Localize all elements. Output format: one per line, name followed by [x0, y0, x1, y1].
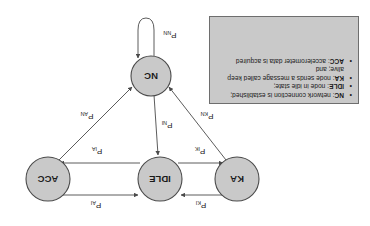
legend-item-idle: •IDLE: node in idle state;: [216, 82, 353, 91]
edge-nc-self-loop: PNN: [138, 18, 177, 58]
edge-nc-self-loop-line: [138, 18, 154, 58]
edge-idle-to-acc: PIA: [60, 146, 140, 163]
legend-term-ka: KA: [334, 75, 344, 82]
legend-text-idle: : node in idle state;: [274, 83, 329, 90]
legend-item-ka: •KA: node sends a message called keep al…: [216, 65, 353, 82]
legend-text-acc: : accelerometer data is acquired: [236, 58, 330, 65]
edge-label-ka-to-nc: PKN: [200, 111, 213, 121]
edge-label-nc-to-idle: PNI: [162, 120, 173, 130]
legend-term-acc: ACC: [330, 58, 344, 65]
edge-label-ka-to-idle: PKI: [196, 200, 206, 210]
legend-item-nc: •NC: network connection is established;: [216, 90, 353, 99]
edge-label-nc-self-loop: PNN: [163, 30, 176, 40]
edge-label-idle-to-acc: PIA: [91, 146, 102, 156]
state-node-nc[interactable]: NC: [131, 56, 171, 96]
edge-acc-to-idle: PAI: [57, 195, 138, 210]
legend-text-nc: : network connection is established;: [230, 92, 334, 99]
bullet-icon: •: [350, 82, 352, 91]
bullet-icon: •: [350, 73, 352, 82]
legend-term-idle: IDLE: [329, 83, 344, 90]
edge-label-acc-to-idle: PAI: [91, 200, 101, 210]
legend-text-ka: : node sends a message called keep alive…: [227, 66, 344, 82]
state-node-idle-label: IDLE: [149, 174, 171, 185]
state-node-ka[interactable]: KA: [215, 157, 259, 201]
edge-nc-to-idle: PNI: [154, 95, 172, 155]
legend-list: •NC: network connection is established; …: [216, 56, 353, 99]
edge-label-acc-to-nc: PAN: [80, 111, 93, 121]
bullet-icon: •: [350, 56, 352, 65]
legend-item-acc: •ACC: accelerometer data is acquired: [216, 56, 353, 65]
legend-box: •NC: network connection is established; …: [209, 16, 359, 104]
state-node-ka-label: KA: [230, 174, 244, 185]
figure-canvas: PKI PIK PAI PIA PNI PKN PA: [0, 0, 370, 226]
edge-nc-to-idle-line: [154, 95, 158, 155]
edge-idle-to-ka: PIK: [178, 146, 223, 163]
edge-label-idle-to-ka: PIK: [194, 146, 205, 156]
state-node-nc-label: NC: [144, 71, 158, 82]
bullet-icon: •: [350, 90, 352, 99]
state-node-idle[interactable]: IDLE: [138, 157, 182, 201]
edge-ka-to-idle: PKI: [181, 195, 226, 210]
state-node-acc[interactable]: ACC: [26, 157, 70, 201]
state-node-acc-label: ACC: [38, 174, 59, 185]
legend-term-nc: NC: [334, 92, 344, 99]
